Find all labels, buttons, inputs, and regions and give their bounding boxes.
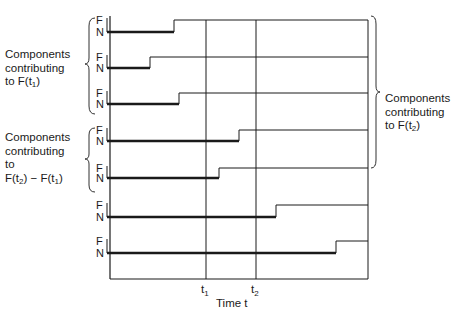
failed-label: N (96, 62, 104, 74)
functioning-segment (276, 205, 368, 217)
left-mid-brace (85, 128, 95, 192)
functioning-segment (179, 93, 368, 104)
functioning-segment (174, 20, 368, 32)
functioning-segment (219, 168, 368, 178)
failed-label: N (96, 98, 104, 110)
functioning-label: F (96, 235, 103, 247)
component-row-3: FN (96, 87, 368, 110)
right-group-label: Components contributing to F(t2) (385, 92, 450, 136)
left-mid-group-label: Components contributing to F(t2) − F(t1) (5, 131, 70, 188)
left-top-group-label: Components contributing to F(t1) (5, 48, 70, 92)
functioning-segment (150, 57, 368, 68)
component-row-2: FN (96, 51, 368, 74)
functioning-label: F (96, 14, 103, 26)
t1-label: t1 (201, 283, 209, 298)
component-row-7: FN (96, 235, 368, 259)
functioning-segment (239, 130, 368, 141)
failed-label: N (96, 211, 104, 223)
component-row-5: FN (96, 162, 368, 184)
failed-label: N (96, 135, 104, 147)
component-row-6: FN (96, 199, 368, 223)
left-top-brace (85, 18, 95, 114)
failed-label: N (96, 247, 104, 259)
right-brace (371, 16, 380, 168)
failed-label: N (96, 26, 104, 38)
t2-label: t2 (251, 283, 259, 298)
component-row-1: FN (96, 14, 368, 38)
component-rows: FNFNFNFNFNFNFN (96, 14, 368, 259)
failed-label: N (96, 172, 104, 184)
functioning-label: F (96, 199, 103, 211)
x-axis-label: Time t (216, 297, 248, 309)
component-row-4: FN (96, 124, 368, 147)
functioning-segment (336, 241, 368, 253)
